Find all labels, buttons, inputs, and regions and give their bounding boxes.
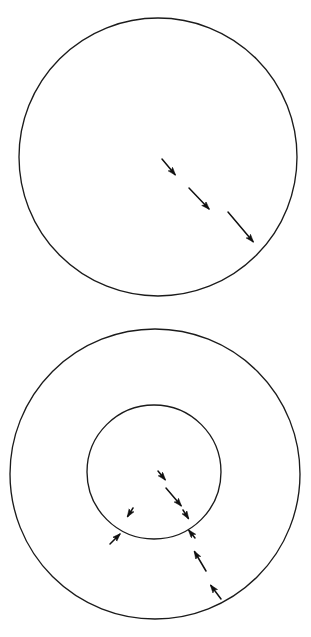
inner-flux-arrow-2 bbox=[166, 488, 181, 506]
outer-flux-arrow-2 bbox=[195, 552, 206, 571]
outer-flux-arrow-left bbox=[110, 534, 120, 544]
figure-panel-bottom bbox=[0, 318, 311, 637]
inner-flux-arrow-group bbox=[128, 471, 189, 518]
panel-bottom-canvas bbox=[0, 318, 311, 637]
inner-flux-arrow-1 bbox=[158, 471, 165, 480]
inner-flux-arrow-3 bbox=[183, 510, 188, 518]
outer-circle bbox=[19, 18, 297, 296]
outer-flux-arrow-3 bbox=[211, 586, 221, 599]
outer-circle bbox=[10, 329, 300, 619]
inner-circle bbox=[87, 405, 221, 539]
panel-top-canvas bbox=[0, 0, 311, 318]
flux-arrow-group bbox=[162, 159, 253, 242]
outer-flux-arrow-1 bbox=[189, 530, 195, 538]
figure-panel-top bbox=[0, 0, 311, 318]
flux-arrow-1 bbox=[162, 159, 175, 175]
flux-arrow-3 bbox=[228, 212, 253, 242]
inner-flux-arrow-4 bbox=[128, 508, 133, 516]
figure-sheet bbox=[0, 0, 311, 637]
outer-flux-arrow-group bbox=[110, 530, 221, 599]
flux-arrow-2 bbox=[189, 188, 209, 209]
